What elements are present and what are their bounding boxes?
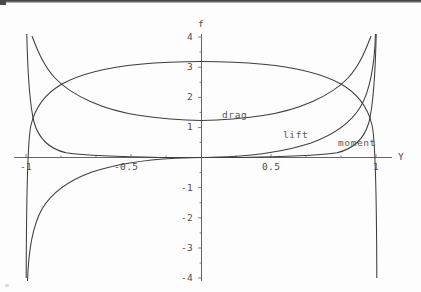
curve-drag-left-branch [32, 36, 202, 120]
curve-label-lift: lift [283, 129, 308, 140]
plot-figure: f Y 4 3 2 1 -1 -2 -3 -4 -1 -0.5 0.5 1 dr… [0, 0, 421, 292]
x-tick-label-05: 0.5 [262, 161, 280, 172]
x-axis-label: Y [398, 151, 404, 162]
y-tick-label-neg2: -2 [181, 212, 193, 223]
y-tick-label-2: 2 [187, 91, 193, 102]
y-tick-label-3: 3 [187, 61, 193, 72]
x-tick-label-neg05: -0.5 [114, 161, 138, 172]
curve-label-drag: drag [222, 109, 247, 120]
curve-label-moment: moment [338, 137, 376, 148]
y-tick-label-neg4: -4 [181, 272, 193, 283]
y-axis-label: f [198, 18, 204, 29]
y-tick-label-1: 1 [187, 121, 193, 132]
y-tick-label-neg1: -1 [181, 182, 193, 193]
y-tick-label-neg3: -3 [181, 242, 193, 253]
y-tick-label-4: 4 [187, 31, 193, 42]
x-tick-label-1: 1 [373, 161, 379, 172]
curve-drag-right-branch [202, 36, 372, 120]
x-tick-label-neg1: -1 [20, 161, 32, 172]
